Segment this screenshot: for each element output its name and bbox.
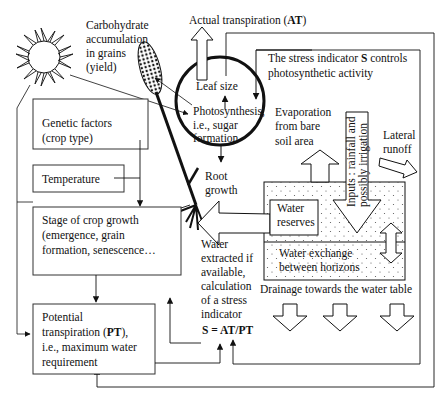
photosynthesis-label-line: Photosynthesis, — [193, 105, 265, 118]
water-extracted-label-line: Water — [201, 238, 228, 250]
inputs-label-line: possibly irrigation — [357, 123, 370, 207]
root-growth-label-line: growth — [205, 184, 238, 197]
lateral-runoff-label-line: Lateral — [383, 129, 416, 141]
water-reserves-label-line: Water — [277, 202, 304, 214]
crop-stage-label-line: formation, senescence… — [42, 244, 156, 257]
leaf-size-label: Leaf size — [196, 80, 238, 92]
drainage-arrows — [273, 304, 414, 331]
pt-text: transpiration ( — [42, 326, 107, 339]
drainage-arrow-icon — [380, 304, 414, 331]
stress-indicator-note-line2: photosynthetic activity — [268, 67, 373, 80]
stress-formula: S = AT/PT — [202, 324, 253, 336]
photosynthesis-label-line: i.e., sugar — [193, 119, 238, 132]
water-extracted-label-line: available, — [201, 266, 246, 279]
actual-transpiration-arrow-icon — [191, 27, 213, 80]
genetic-factors-label-line: Genetic factors — [42, 117, 112, 129]
stress-indicator-note: The stress indicator S controls — [268, 52, 408, 64]
water-extracted-label-line: calculation — [201, 280, 252, 292]
pt-label-line: Potential — [42, 311, 83, 323]
pt-abbrev: PT — [107, 326, 122, 338]
sun-icon — [16, 28, 73, 86]
crop-stage-label-line: Stage of crop growth — [42, 214, 139, 227]
pt-to-s-arrow — [155, 344, 220, 363]
water-exchange-label-line: between horizons — [279, 261, 360, 273]
crop-water-model-diagram: Carbohydrate accumulation in grains (yie… — [0, 0, 448, 399]
close-paren: ) — [302, 14, 306, 27]
actual-transpiration-text: Actual transpiration ( — [189, 14, 288, 27]
grain-head-icon — [133, 39, 166, 96]
carbohydrate-label-line: in grains — [86, 47, 126, 60]
drainage-label: Drainage towards the water table — [260, 283, 412, 296]
pt-label-line: requirement — [42, 356, 98, 369]
sun-to-pt-connector — [17, 85, 30, 334]
diagram-canvas: Carbohydrate accumulation in grains (yie… — [0, 0, 448, 399]
evaporation-label-line: Evaporation — [275, 106, 331, 119]
evaporation-label-line: from bare — [275, 120, 320, 132]
drainage-arrow-icon — [273, 304, 307, 331]
s-to-stage-arrow — [170, 298, 201, 343]
photosynthesis-label-line: formation — [193, 132, 239, 144]
stress-note-text: controls — [367, 52, 407, 64]
actual-transpiration-label: Actual transpiration (AT) — [189, 14, 306, 27]
lateral-runoff-label-line: runoff — [383, 143, 412, 155]
water-extracted-label-line: of a stress — [201, 294, 248, 306]
pt-text: ), — [122, 326, 129, 339]
water-extracted-label-line: indicator — [201, 308, 242, 320]
evaporation-arrow-icon — [301, 150, 339, 182]
carbohydrate-label-line: (yield) — [86, 61, 117, 74]
water-reserves-label-line: reserves — [277, 216, 315, 228]
temperature-label: Temperature — [42, 173, 100, 186]
lateral-runoff-arrow-icon — [379, 158, 417, 178]
drainage-arrow-icon — [323, 304, 357, 331]
carbohydrate-label-line: accumulation — [86, 33, 148, 45]
water-extracted-label-line: extracted if — [201, 252, 253, 264]
at-abbrev: AT — [287, 14, 302, 26]
water-exchange-label-line: Water exchange — [279, 247, 352, 260]
carbohydrate-label-line: Carbohydrate — [86, 19, 149, 32]
genetic-factors-label-line: (crop type) — [42, 132, 93, 145]
root-growth-label-line: Root — [205, 170, 228, 182]
evaporation-label-line: soil area — [275, 135, 314, 147]
crop-stage-label-line: (emergence, grain — [42, 229, 125, 242]
stress-note-text: The stress indicator — [268, 52, 361, 64]
pt-label-line: transpiration (PT), — [42, 326, 128, 339]
pt-label-line: i.e., maximum water — [42, 341, 137, 354]
